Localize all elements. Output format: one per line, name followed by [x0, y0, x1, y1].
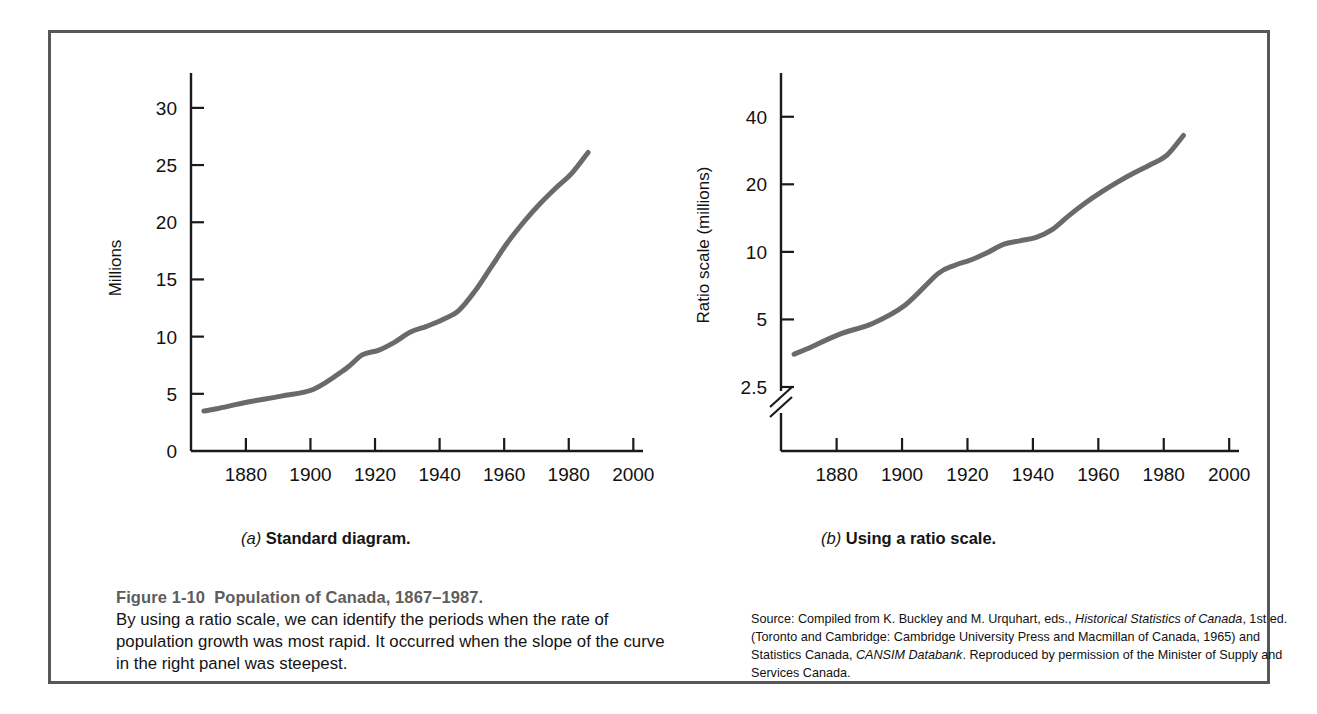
source-prefix: Source: Compiled from K. Buckley and M. …	[751, 612, 1075, 626]
y-tick-label: 10	[746, 242, 767, 263]
y-tick-label: 20	[746, 174, 767, 195]
chart-standard-diagram: 0510152025301880190019201940196019802000…	[51, 33, 661, 513]
figure-number: Figure 1-10	[116, 588, 205, 606]
panel-a-letter: (a)	[241, 529, 261, 547]
y-tick-label: 30	[156, 98, 177, 119]
population-curve	[204, 152, 588, 410]
x-tick-label: 2000	[1208, 464, 1250, 485]
panel-b-caption-text: Using a ratio scale.	[846, 529, 996, 547]
x-tick-label: 1880	[225, 464, 267, 485]
panel-a-caption-text: Standard diagram.	[266, 529, 411, 547]
panel-ratio-scale: 2.551020401880190019201940196019802000Ra…	[661, 33, 1273, 513]
chart-ratio-scale: 2.551020401880190019201940196019802000Ra…	[661, 33, 1273, 513]
x-tick-label: 1920	[354, 464, 396, 485]
x-tick-label: 1940	[418, 464, 460, 485]
panel-b-letter: (b)	[821, 529, 841, 547]
y-tick-label: 25	[156, 155, 177, 176]
y-tick-label: 40	[746, 107, 767, 128]
x-tick-label: 1980	[1143, 464, 1185, 485]
x-tick-label: 1920	[946, 464, 988, 485]
x-tick-label: 2000	[612, 464, 654, 485]
y-axis-label: Millions	[106, 240, 125, 297]
x-tick-label: 1980	[548, 464, 590, 485]
source-note: Source: Compiled from K. Buckley and M. …	[751, 611, 1296, 683]
source-title-1: Historical Statistics of Canada	[1075, 612, 1242, 626]
x-tick-label: 1960	[1077, 464, 1119, 485]
x-tick-label: 1960	[483, 464, 525, 485]
figure-body-text: By using a ratio scale, we can identify …	[116, 609, 676, 676]
y-tick-label: 2.5	[741, 377, 767, 398]
y-tick-label: 5	[166, 384, 177, 405]
panel-b-caption: (b) Using a ratio scale.	[821, 529, 996, 548]
y-tick-label: 0	[166, 441, 177, 462]
figure-title: Figure 1-10Population of Canada, 1867–19…	[116, 588, 676, 607]
x-tick-label: 1940	[1012, 464, 1054, 485]
figure-title-text: Population of Canada, 1867–1987.	[214, 588, 483, 606]
y-tick-label: 10	[156, 327, 177, 348]
panel-standard-diagram: 0510152025301880190019201940196019802000…	[51, 33, 661, 513]
panel-a-caption: (a) Standard diagram.	[241, 529, 411, 548]
x-tick-label: 1900	[289, 464, 331, 485]
y-axis-label: Ratio scale (millions)	[694, 167, 713, 324]
population-curve	[794, 136, 1183, 355]
x-tick-label: 1880	[815, 464, 857, 485]
y-tick-label: 20	[156, 212, 177, 233]
figure-caption-block: Figure 1-10Population of Canada, 1867–19…	[116, 588, 676, 676]
source-title-2: CANSIM Databank	[856, 648, 962, 662]
figure-frame: 0510152025301880190019201940196019802000…	[48, 30, 1270, 684]
figure-page: 0510152025301880190019201940196019802000…	[0, 0, 1317, 714]
y-tick-label: 5	[756, 309, 767, 330]
y-tick-label: 15	[156, 269, 177, 290]
x-tick-label: 1900	[881, 464, 923, 485]
